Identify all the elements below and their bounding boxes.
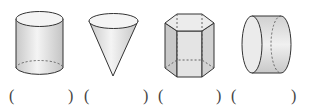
answer-blank-3-close: ) [216,88,221,104]
answer-blank-1-open: ( [9,88,14,104]
answer-blank-1-close: ) [68,88,73,104]
answer-blank-3-open: ( [158,88,163,104]
answer-blank-4-open: ( [231,88,236,104]
horizontal-cylinder-figure [242,16,291,73]
cylinder-figure [16,12,63,75]
hexagonal-prism-figure [165,14,214,77]
answer-blank-2-close: ) [143,88,148,104]
cone-figure [89,14,138,77]
shapes-canvas [0,0,309,112]
answer-blank-4-close: ) [291,88,296,104]
answer-blank-2-open: ( [84,88,89,104]
